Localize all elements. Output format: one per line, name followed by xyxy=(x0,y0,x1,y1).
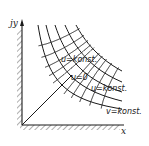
label-u-zero: u=0 xyxy=(71,73,88,82)
v-const-curve xyxy=(39,29,80,46)
y-axis-arrow-icon xyxy=(20,19,24,26)
label-v-konst: v=konst. xyxy=(106,107,142,116)
left-wall-hatching xyxy=(17,30,22,126)
v-const-curve xyxy=(42,35,85,57)
flow-net-diagram: jy x u=konst. u=0 u=konst. v=konst. xyxy=(0,0,149,146)
label-u-konst-lower: u=konst. xyxy=(91,84,127,93)
diagonal-line xyxy=(22,75,72,125)
label-u-konst-upper: u=konst. xyxy=(61,55,97,64)
u-const-curve xyxy=(76,25,122,71)
x-axis-label: x xyxy=(121,126,126,136)
y-axis-label: jy xyxy=(8,18,19,28)
bottom-wall-hatching xyxy=(20,125,120,130)
